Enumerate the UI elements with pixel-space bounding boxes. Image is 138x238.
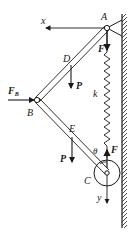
wall: [122, 14, 127, 228]
force-spring-a-label: F: [97, 43, 105, 54]
point-d-label: D: [62, 53, 71, 64]
angle-label: θ: [93, 146, 98, 156]
spring-label: k: [93, 88, 98, 99]
weight-d-label: P: [76, 80, 83, 91]
bar-ab: [35, 26, 109, 102]
x-axis-label: x: [40, 15, 46, 26]
point-c-label: C: [84, 175, 91, 186]
point-e-label: E: [68, 123, 75, 134]
joint-c: [105, 171, 109, 175]
joint-b: [34, 97, 39, 102]
y-axis-label: y: [96, 192, 102, 203]
force-b-label: FB: [7, 85, 19, 97]
mechanism-diagram: x k F F θ y P D P E FB: [0, 0, 138, 238]
bar-bc: [35, 98, 109, 174]
point-a-label: A: [100, 11, 108, 22]
weight-e-label: P: [60, 153, 67, 164]
force-spring-c-label: F: [110, 144, 118, 155]
joint-a: [104, 25, 109, 30]
point-b-label: B: [27, 107, 33, 118]
